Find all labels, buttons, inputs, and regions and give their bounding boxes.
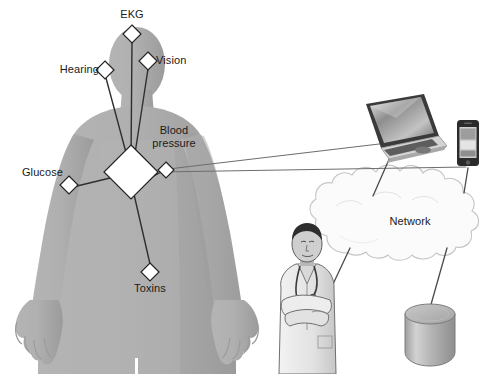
label-ekg: EKG — [102, 8, 162, 20]
database-icon[interactable] — [405, 304, 455, 366]
phone-icon[interactable] — [457, 120, 479, 166]
label-hearing: Hearing — [19, 63, 99, 75]
network-cloud-shape[interactable] — [310, 165, 479, 260]
doctor-figure[interactable] — [279, 223, 336, 374]
label-blood-pressure: Blood pressure — [144, 124, 204, 150]
label-glucose: Glucose — [0, 166, 63, 178]
body-silhouette — [15, 27, 258, 374]
link-hub-ekg — [131, 42, 132, 160]
label-network: Network — [378, 215, 442, 227]
label-toxins: Toxins — [120, 282, 180, 294]
link-phone-cloud — [464, 168, 468, 193]
link-cloud-database — [430, 248, 447, 308]
label-vision: Vision — [156, 54, 186, 66]
laptop-icon[interactable] — [366, 94, 447, 163]
diagram-canvas: EKG Vision Hearing Blood pressure Glucos… — [0, 0, 500, 374]
diagram-svg — [0, 0, 500, 374]
